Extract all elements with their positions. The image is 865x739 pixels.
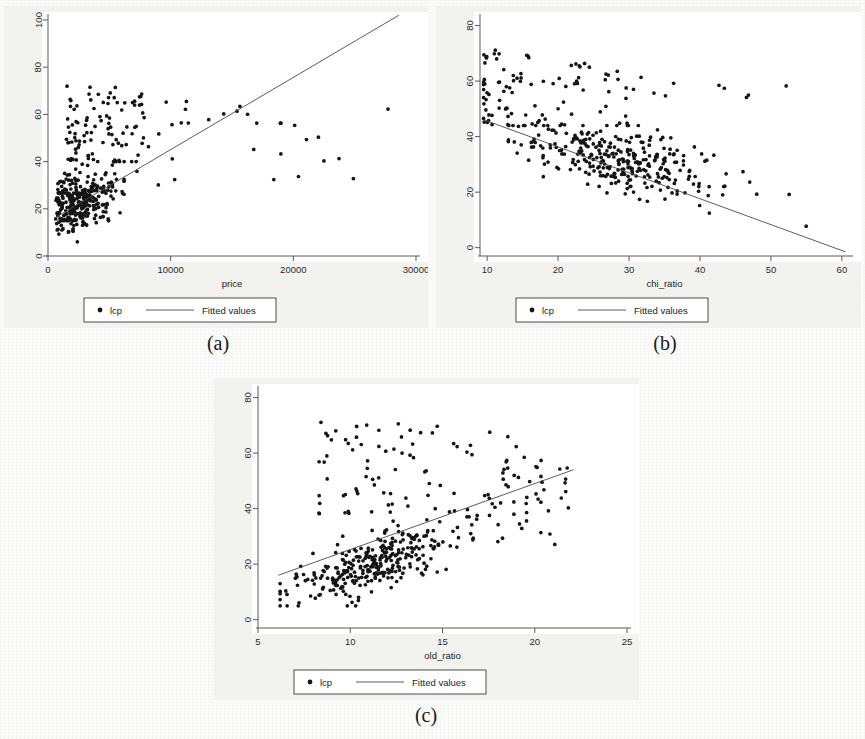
data-point: [429, 544, 433, 548]
data-point: [643, 181, 647, 185]
legend-label-lcp: lcp: [542, 305, 554, 316]
data-point: [92, 107, 96, 111]
legend-label-lcp: lcp: [320, 677, 332, 688]
data-point: [350, 601, 354, 605]
data-point: [141, 111, 145, 115]
data-point: [629, 178, 633, 182]
data-point: [632, 88, 636, 92]
data-point: [396, 422, 400, 426]
data-point: [675, 148, 679, 152]
data-point: [93, 125, 97, 129]
data-point: [365, 466, 369, 470]
legend-label-fitted: Fitted values: [634, 305, 688, 316]
data-point: [569, 168, 573, 172]
data-point: [312, 573, 316, 577]
data-point: [343, 562, 347, 566]
data-point: [147, 145, 151, 149]
data-point: [585, 132, 589, 136]
data-point: [66, 141, 70, 145]
data-point: [804, 224, 808, 228]
data-point: [784, 84, 788, 88]
data-point: [546, 127, 550, 131]
data-point: [547, 509, 551, 513]
data-point: [597, 148, 601, 152]
data-point: [539, 475, 543, 479]
data-point: [629, 136, 633, 140]
x-tick-label: 5: [255, 636, 260, 647]
data-point: [546, 124, 550, 128]
data-point: [574, 62, 578, 66]
data-point: [512, 512, 516, 516]
data-point: [69, 222, 73, 226]
data-point: [537, 133, 541, 137]
data-point: [574, 163, 578, 167]
data-point: [644, 158, 648, 162]
data-point: [95, 202, 99, 206]
data-point: [384, 449, 388, 453]
data-point: [625, 159, 629, 163]
data-point: [358, 555, 362, 559]
data-point: [424, 567, 428, 571]
data-point: [435, 570, 439, 574]
data-point: [438, 484, 442, 488]
data-point: [451, 529, 455, 533]
data-point: [355, 425, 359, 429]
data-point: [603, 152, 607, 156]
data-point: [787, 193, 791, 197]
data-point: [318, 593, 322, 597]
data-point: [674, 178, 678, 182]
data-point: [564, 477, 568, 481]
data-point: [112, 160, 116, 164]
data-point: [532, 139, 536, 143]
data-point: [564, 145, 568, 149]
data-point: [317, 135, 321, 139]
data-point: [74, 186, 78, 190]
data-point: [81, 220, 85, 224]
data-point: [76, 240, 80, 244]
data-point: [497, 52, 501, 56]
data-point: [185, 100, 189, 104]
data-point: [483, 494, 487, 498]
data-point: [435, 424, 439, 428]
data-point: [557, 167, 561, 171]
data-point: [55, 222, 59, 226]
data-point: [335, 566, 339, 570]
data-point: [114, 189, 118, 193]
data-point: [70, 179, 74, 183]
data-point: [504, 107, 508, 111]
data-point: [365, 423, 369, 427]
data-point: [341, 534, 345, 538]
data-point: [591, 133, 595, 137]
plot-area: [42, 12, 428, 262]
data-point: [318, 512, 322, 516]
data-point: [717, 83, 721, 87]
data-point: [539, 531, 543, 535]
data-point: [586, 182, 590, 186]
data-point: [321, 569, 325, 573]
data-point: [625, 121, 629, 125]
data-point: [222, 112, 226, 116]
data-point: [85, 180, 89, 184]
x-tick-label: 15: [437, 636, 448, 647]
data-point: [687, 177, 691, 181]
data-point: [341, 572, 345, 576]
data-point: [72, 107, 76, 111]
data-point: [708, 211, 712, 215]
data-point: [122, 160, 126, 164]
data-point: [98, 115, 102, 119]
data-point: [173, 178, 177, 182]
data-point: [535, 466, 539, 470]
data-point: [616, 77, 620, 81]
data-point: [58, 180, 62, 184]
data-point: [520, 527, 524, 531]
y-tick-label: 60: [33, 109, 44, 120]
data-point: [591, 164, 595, 168]
data-point: [384, 554, 388, 558]
data-point: [102, 184, 106, 188]
data-point: [390, 502, 394, 506]
data-point: [721, 193, 725, 197]
data-point: [588, 161, 592, 165]
data-point: [613, 175, 617, 179]
y-tick-label: 100: [33, 12, 44, 28]
data-point: [600, 144, 604, 148]
